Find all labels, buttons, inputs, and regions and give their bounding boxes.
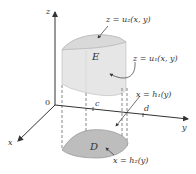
domain-label: D <box>89 141 98 152</box>
solid-label: E <box>91 51 100 62</box>
upper-surface-label: z = u₂(x, y) <box>105 15 151 24</box>
origin-label: 0 <box>45 98 50 107</box>
boundary-h1-label: x = h₁(y) <box>136 90 171 99</box>
tick-d-label: d <box>144 104 149 113</box>
y-axis-label: y <box>181 123 187 132</box>
lower-surface-label: z = u₁(x, y) <box>132 54 178 63</box>
leader-h1 <box>116 96 140 126</box>
x-axis-label: x <box>8 138 13 147</box>
tick-c-label: c <box>95 99 100 108</box>
solid-e <box>62 35 126 96</box>
y-axis <box>55 105 188 119</box>
boundary-h2-label: x = h₂(y) <box>113 156 148 165</box>
x-axis <box>18 105 55 141</box>
z-axis-label: z <box>45 7 51 16</box>
triple-integral-diagram: z y x 0 c d E D z = u₂(x, y) z = u₁(x, y… <box>0 0 196 174</box>
